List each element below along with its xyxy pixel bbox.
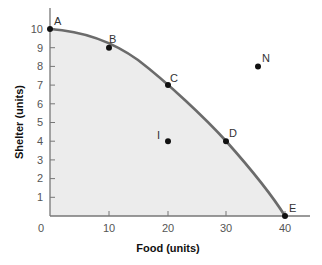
point-b [106, 45, 112, 51]
point-label-b: B [109, 33, 116, 45]
y-axis-title: Shelter (units) [13, 85, 25, 159]
ppf-chart: 1 2 3 4 5 6 7 8 9 10 0 10 20 30 40 Food … [0, 0, 322, 265]
y-tick-label: 5 [37, 116, 43, 128]
feasible-region [50, 29, 285, 216]
point-d [223, 138, 229, 144]
point-label-e: E [289, 202, 296, 214]
y-tick-label: 1 [37, 191, 43, 203]
x-tick-label: 30 [220, 222, 232, 234]
y-tick-label: 3 [37, 154, 43, 166]
x-axis-title: Food (units) [136, 242, 200, 254]
point-e [282, 213, 288, 219]
point-label-a: A [54, 15, 62, 27]
y-tick-label: 8 [37, 60, 43, 72]
point-i [165, 138, 171, 144]
point-label-d: D [229, 127, 237, 139]
x-tick-label: 10 [103, 222, 115, 234]
y-tick-label: 9 [37, 42, 43, 54]
point-label-n: N [262, 52, 270, 64]
point-label-c: C [170, 72, 178, 84]
x-tick-label: 20 [162, 222, 174, 234]
y-tick-label: 7 [37, 79, 43, 91]
point-label-i: I [157, 129, 160, 141]
y-tick-label: 2 [37, 172, 43, 184]
x-tick-label: 40 [279, 222, 291, 234]
y-tick-label: 6 [37, 98, 43, 110]
point-a [47, 26, 53, 32]
y-tick-label: 4 [37, 135, 43, 147]
x-tick-label: 0 [38, 222, 44, 234]
point-n [255, 63, 261, 69]
y-tick-label: 10 [31, 23, 43, 35]
